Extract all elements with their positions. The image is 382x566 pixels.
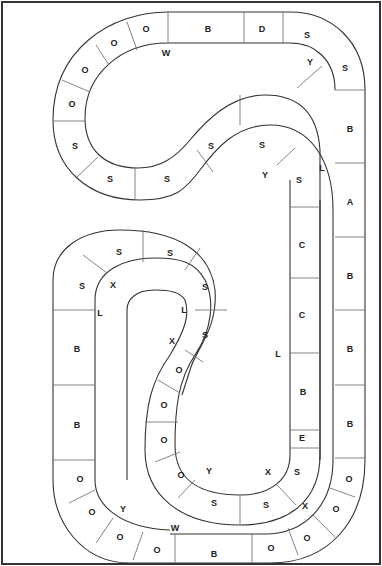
board-space-label: A — [347, 197, 354, 207]
board-space-label: O — [345, 474, 352, 484]
board-space-label: S — [263, 500, 269, 510]
board-space-label: O — [332, 504, 339, 514]
track-marker-label: Y — [120, 504, 126, 514]
board-space-label: O — [177, 470, 184, 480]
board-space-label: O — [81, 65, 88, 75]
board-frame — [2, 2, 380, 564]
board-space-label: S — [211, 498, 217, 508]
board-space-label: C — [299, 310, 306, 320]
board-space-label: S — [79, 281, 85, 291]
board-space-label: O — [175, 365, 182, 375]
board-space-label: S — [208, 141, 214, 151]
board-space-label: S — [107, 174, 113, 184]
space-dividers — [53, 12, 365, 563]
board-space-label: S — [116, 247, 122, 257]
board-space-label: O — [110, 38, 117, 48]
track-marker-label: L — [319, 163, 325, 173]
board-space-label: S — [296, 175, 302, 185]
board-space-label: S — [259, 140, 265, 150]
board-space-label: S — [202, 282, 208, 292]
board-space-label: S — [342, 63, 348, 73]
board-space-label: O — [76, 474, 83, 484]
track-marker-label: Y — [307, 57, 313, 67]
board-space-label: S — [294, 467, 300, 477]
board-space-label: B — [211, 549, 218, 559]
track-marker-label: L — [97, 308, 103, 318]
upper-loop-inner — [85, 43, 335, 460]
board-space-label: O — [303, 533, 310, 543]
track-marker-label: Y — [262, 170, 268, 180]
track-marker-label: L — [275, 349, 281, 359]
board-space-label: B — [300, 387, 307, 397]
board-space-label: O — [88, 507, 95, 517]
track-marker-label: X — [265, 467, 271, 477]
marker-labels: WYLYXLLXLYXXYW — [97, 48, 325, 533]
track-marker-label: Y — [206, 466, 212, 476]
board-space-label: S — [304, 30, 310, 40]
board-space-label: B — [74, 344, 81, 354]
track-marker-label: W — [171, 523, 180, 533]
board-space-label: O — [142, 24, 149, 34]
track-marker-label: L — [181, 305, 187, 315]
inner-track-outer-edge — [127, 200, 320, 525]
board-space-label: B — [347, 419, 354, 429]
board-space-label: O — [116, 532, 123, 542]
board-space-label: O — [153, 545, 160, 555]
board-space-label: E — [299, 433, 305, 443]
track-marker-label: W — [162, 48, 171, 58]
board-space-label: D — [259, 24, 266, 34]
space-labels: OOOOSSSSSBDSSBASCCBBBEBSOOOOBOOOOBBSSSSS… — [68, 24, 353, 559]
game-board: OOOOSSSSSBDSSBASCCBBBEBSOOOOBOOOOBBSSSSS… — [0, 0, 382, 566]
board-space-label: O — [267, 543, 274, 553]
board-space-label: B — [347, 124, 354, 134]
board-space-label: S — [202, 330, 208, 340]
board-space-label: S — [72, 141, 78, 151]
board-space-label: O — [160, 435, 167, 445]
track-marker-label: X — [169, 336, 175, 346]
board-space-label: B — [347, 271, 354, 281]
board-space-label: B — [205, 24, 212, 34]
board-space-label: S — [167, 248, 173, 258]
board-space-label: O — [68, 99, 75, 109]
board-space-label: C — [299, 240, 306, 250]
board-space-label: B — [74, 420, 81, 430]
board-space-label: S — [164, 174, 170, 184]
upper-track-outer-edge — [53, 12, 365, 563]
board-space-label: O — [160, 400, 167, 410]
board-space-label: B — [347, 344, 354, 354]
track-marker-label: X — [110, 280, 116, 290]
track-marker-label: X — [302, 501, 308, 511]
